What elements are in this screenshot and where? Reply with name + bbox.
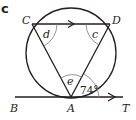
angle-label-74: 74° (80, 84, 99, 96)
angle-label-c: c (92, 28, 98, 41)
point-label-c: C (22, 14, 31, 27)
angle-label-e: e (67, 75, 74, 88)
point-label-d: D (111, 14, 121, 27)
part-label: c (1, 1, 9, 16)
point-label-a: A (66, 102, 75, 115)
angle-label-d: d (43, 28, 50, 41)
circle-theorem-diagram: c C D A B T d c e 74° (0, 0, 136, 120)
point-label-t: T (122, 102, 131, 115)
point-label-b: B (9, 102, 18, 115)
chord-ca (32, 24, 71, 97)
